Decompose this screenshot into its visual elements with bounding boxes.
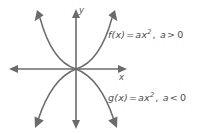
g-comparison-operator: < xyxy=(169,92,179,103)
g-equals-sign: = xyxy=(128,92,138,103)
y-axis-label: y xyxy=(79,5,84,15)
y-axis-arrow-down xyxy=(72,120,80,129)
f-function-name: f(x) xyxy=(108,29,125,40)
g-coefficient: a xyxy=(163,92,169,103)
upward-parabola-arrow-right xyxy=(108,10,117,21)
upward-parabola-equation-label: f(x)=ax2, a>0 xyxy=(108,29,184,40)
f-exponent: 2 xyxy=(147,28,151,36)
f-equals-sign: = xyxy=(125,29,135,40)
x-axis-arrow-left xyxy=(9,65,18,73)
f-comparison-value: 0 xyxy=(176,29,184,40)
g-function-name: g(x) xyxy=(108,92,128,103)
f-expression: ax xyxy=(135,29,147,40)
upward-parabola-arrow-left xyxy=(35,10,44,21)
f-comma: , xyxy=(152,29,157,40)
f-comparison-operator: > xyxy=(166,29,176,40)
g-comma: , xyxy=(154,92,159,103)
x-axis-label: x xyxy=(119,72,124,82)
downward-parabola-equation-label: g(x)=ax2, a<0 xyxy=(108,92,187,103)
g-expression: ax xyxy=(138,92,150,103)
parabola-diagram xyxy=(0,0,201,134)
g-comparison-value: 0 xyxy=(179,92,187,103)
